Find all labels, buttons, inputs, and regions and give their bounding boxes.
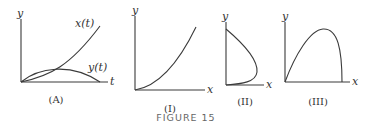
panel-i-x-label: x bbox=[207, 83, 214, 96]
panel-iii-caption: (III) bbox=[308, 96, 328, 107]
panel-a: y t x(t) y(t) (A) bbox=[16, 7, 115, 105]
panel-a-y-curve-label: y(t) bbox=[87, 61, 107, 74]
panel-ii-caption: (II) bbox=[237, 96, 253, 107]
panel-a-t-label: t bbox=[110, 75, 115, 88]
figure-caption: FIGURE 15 bbox=[156, 112, 215, 123]
panel-ii-y-label: y bbox=[221, 10, 229, 23]
panel-ii: y x (II) bbox=[221, 10, 273, 107]
panel-i-curve bbox=[135, 27, 196, 90]
panel-a-x-curve-label: x(t) bbox=[75, 17, 94, 30]
figure-15: y t x(t) y(t) (A) y x (I) y x (II) y x (… bbox=[0, 0, 372, 130]
panel-a-y-label: y bbox=[16, 7, 24, 20]
panel-iii: y x (III) bbox=[281, 10, 359, 107]
panel-i: y x (I) bbox=[131, 4, 214, 114]
panel-i-y-label: y bbox=[131, 4, 139, 17]
panel-iii-x-label: x bbox=[352, 75, 359, 88]
panel-iii-curve bbox=[285, 29, 342, 82]
panel-ii-x-label: x bbox=[266, 78, 273, 91]
panel-iii-y-label: y bbox=[281, 10, 289, 23]
panel-a-caption: (A) bbox=[48, 94, 63, 105]
panel-ii-curve bbox=[226, 29, 257, 85]
